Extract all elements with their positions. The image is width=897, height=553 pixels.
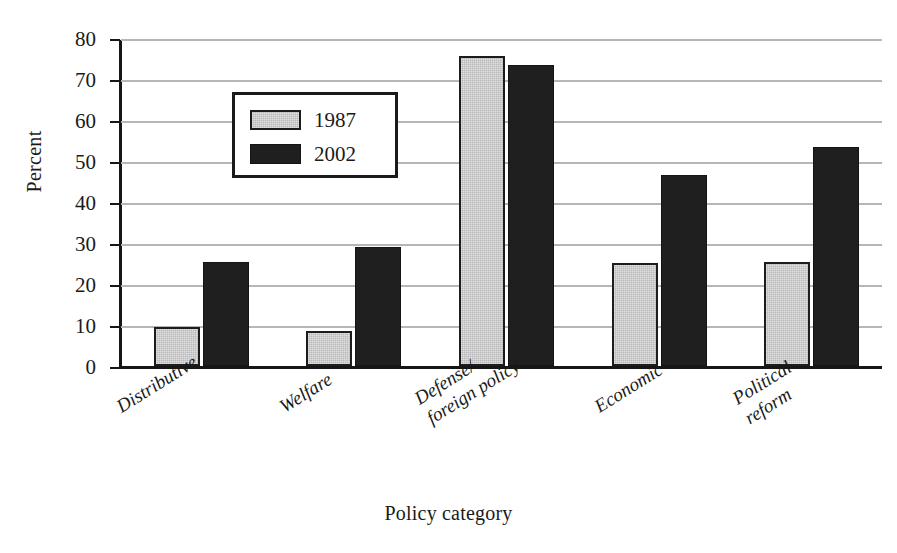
y-tick-50 bbox=[110, 162, 120, 164]
bar-chart-figure: Percent 01020304050607080 1987 2002 Dist… bbox=[0, 0, 897, 553]
gridline-80 bbox=[121, 39, 882, 41]
plot-area bbox=[119, 40, 882, 368]
y-tick-40 bbox=[110, 203, 120, 205]
bar-1987-defense-foreign-policy bbox=[459, 56, 505, 366]
bar-1987-welfare bbox=[306, 331, 352, 366]
y-tick-30 bbox=[110, 244, 120, 246]
y-tick-label-10: 10 bbox=[6, 316, 96, 337]
y-tick-label-20: 20 bbox=[6, 275, 96, 296]
bar-2002-political-reform bbox=[813, 147, 859, 366]
bar-1987-political-reform bbox=[764, 262, 810, 366]
y-tick-label-70: 70 bbox=[6, 70, 96, 91]
x-tick-label-line: Welfare bbox=[275, 367, 336, 417]
x-tick-label-welfare: Welfare bbox=[275, 367, 336, 417]
bar-2002-welfare bbox=[355, 247, 401, 366]
y-tick-label-60: 60 bbox=[6, 111, 96, 132]
legend-swatch-1987 bbox=[250, 110, 301, 130]
legend-swatch-2002 bbox=[250, 144, 301, 164]
y-tick-60 bbox=[110, 121, 120, 123]
y-tick-label-0: 0 bbox=[6, 357, 96, 378]
y-tick-label-80: 80 bbox=[6, 29, 96, 50]
legend-label-2002: 2002 bbox=[314, 144, 356, 165]
bar-2002-defense-foreign-policy bbox=[508, 65, 554, 366]
y-tick-label-40: 40 bbox=[6, 193, 96, 214]
x-axis-title: Policy category bbox=[0, 502, 897, 525]
y-tick-label-30: 30 bbox=[6, 234, 96, 255]
legend-item-1987[interactable]: 1987 bbox=[235, 103, 395, 137]
y-tick-10 bbox=[110, 326, 120, 328]
y-tick-20 bbox=[110, 285, 120, 287]
bar-2002-distributive bbox=[203, 262, 249, 366]
y-tick-0 bbox=[110, 367, 120, 369]
bar-1987-economic bbox=[612, 263, 658, 366]
legend-label-1987: 1987 bbox=[314, 110, 356, 131]
y-tick-80 bbox=[110, 39, 120, 41]
y-tick-label-50: 50 bbox=[6, 152, 96, 173]
y-tick-70 bbox=[110, 80, 120, 82]
legend: 1987 2002 bbox=[232, 92, 398, 178]
bar-2002-economic bbox=[661, 175, 707, 366]
legend-item-2002[interactable]: 2002 bbox=[235, 137, 395, 171]
